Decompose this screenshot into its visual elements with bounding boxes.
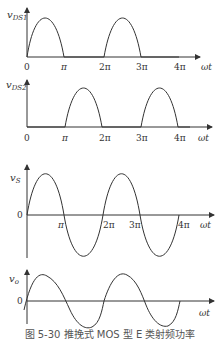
svg-text:vo: vo: [9, 273, 19, 286]
vds1-curve: [27, 18, 179, 57]
x-label: ωt: [199, 308, 210, 318]
tick-0: 0: [24, 133, 30, 143]
panel-vds1: vDS1 0 π 2π 3π 4π ωt: [7, 8, 212, 72]
tick-0: 0: [24, 62, 30, 72]
tick-4pi: 4π: [174, 62, 186, 72]
tick-0: 0: [17, 210, 23, 220]
tick-4pi: 4π: [174, 133, 186, 143]
tick-3pi: 3π: [136, 62, 148, 72]
x-label: ωt: [198, 133, 209, 143]
tick-0: 0: [17, 296, 23, 306]
tick-pi: π: [57, 220, 65, 230]
tick-pi: π: [61, 133, 69, 143]
panel-vo: vo 0 ωt: [9, 270, 214, 328]
figure-caption: 图 5-30 推挽式 MOS 型 E 类射频功率: [0, 326, 220, 340]
tick-2pi: 2π: [99, 133, 111, 143]
x-label: ωt: [200, 220, 211, 230]
svg-text:vDS2: vDS2: [6, 79, 27, 92]
x-label: ωt: [201, 62, 212, 72]
svg-text:vS: vS: [10, 172, 21, 185]
panel-vds2: vDS2 0 π 2π 3π 4π ωt: [6, 79, 212, 143]
tick-4pi: 4π: [178, 220, 190, 230]
panel-vs: vS 0 π 2π 3π 4π ωt: [10, 165, 214, 258]
svg-text:vDS1: vDS1: [7, 9, 28, 22]
tick-2pi: 2π: [103, 220, 115, 230]
vds2-curve: [27, 88, 190, 127]
tick-2pi: 2π: [99, 62, 111, 72]
tick-pi: π: [60, 62, 68, 72]
tick-3pi: 3π: [129, 220, 141, 230]
waveform-figure: vDS1 0 π 2π 3π 4π ωt vDS2 0 π 2π 3π 4π ω…: [0, 0, 220, 340]
tick-3pi: 3π: [136, 133, 148, 143]
